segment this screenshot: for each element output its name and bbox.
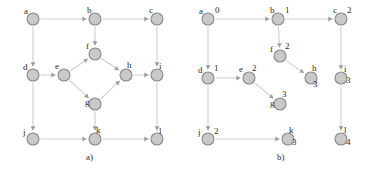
arrowhead-j-to-k (275, 137, 279, 142)
node-distance-b: 1 (285, 5, 290, 15)
node-letter-e: e (239, 64, 243, 74)
node-f[interactable]: f (86, 41, 101, 60)
node-letter-e: e (55, 61, 59, 71)
node-circle-a[interactable] (202, 13, 214, 25)
node-letter-g: g (85, 97, 90, 107)
node-letter-l: l (344, 125, 347, 135)
node-circle-g[interactable] (89, 98, 101, 110)
node-circle-f[interactable] (89, 48, 101, 60)
arrowhead-d-to-j (206, 126, 211, 130)
node-distance-c: 2 (347, 5, 352, 15)
figure-canvas: abcfdehigjkla)a0b1c2f2d1e2h3i3g3j2k3l4b) (0, 0, 365, 173)
node-g[interactable]: g (85, 97, 101, 110)
node-distance-g: 3 (282, 89, 287, 99)
node-letter-f: f (270, 44, 273, 54)
node-letter-g: g (270, 98, 275, 108)
node-circle-e[interactable] (58, 69, 70, 81)
node-distance-h: 3 (313, 79, 318, 89)
node-circle-f[interactable] (274, 50, 286, 62)
node-letter-j: j (197, 127, 201, 137)
panel-a-edges (31, 17, 160, 142)
node-letter-f: f (86, 41, 89, 51)
node-circle-h[interactable] (120, 69, 132, 81)
arrowhead-a-to-d (206, 65, 211, 69)
panel-a: abcfdehigjkla) (22, 5, 163, 162)
node-letter-k: k (289, 125, 294, 135)
node-letter-h: h (312, 63, 317, 73)
node-circle-a[interactable] (27, 13, 39, 25)
arrowhead-a-to-b (82, 17, 86, 22)
node-letter-a: a (24, 6, 28, 16)
node-letter-c: c (149, 5, 153, 15)
panel-b: a0b1c2f2d1e2h3i3g3j2k3l4b) (197, 5, 352, 162)
arrowhead-f-to-h (299, 69, 304, 73)
node-distance-j: 2 (214, 126, 219, 136)
arrowhead-k-to-l (144, 137, 148, 142)
node-letter-h: h (127, 60, 132, 70)
node-letter-d: d (198, 65, 203, 75)
node-letter-k: k (96, 125, 101, 135)
node-circle-g[interactable] (274, 98, 286, 110)
panel-a-caption: a) (86, 152, 93, 162)
node-b[interactable]: b (87, 5, 101, 25)
node-letter-i: i (159, 61, 162, 71)
arrowhead-h-to-i (144, 73, 148, 78)
node-c[interactable]: c2 (333, 5, 352, 25)
node-letter-a: a (199, 6, 203, 16)
node-circle-j[interactable] (27, 133, 39, 145)
node-j[interactable]: j (22, 127, 39, 145)
node-distance-l: 4 (346, 137, 351, 147)
arrowhead-j-to-k (82, 137, 86, 142)
arrowhead-b-to-f (93, 41, 98, 45)
node-circle-e[interactable] (243, 72, 255, 84)
node-letter-i: i (344, 64, 347, 74)
arrowhead-b-to-c (328, 17, 332, 22)
arrowhead-d-to-e (236, 76, 240, 81)
node-h[interactable]: h3 (305, 63, 318, 89)
graph-diagram-svg: abcfdehigjkla)a0b1c2f2d1e2h3i3g3j2k3l4b) (0, 0, 365, 173)
arrowhead-d-to-e (51, 73, 55, 78)
node-circle-d[interactable] (202, 72, 214, 84)
panel-b-caption: b) (277, 152, 285, 162)
node-distance-d: 1 (214, 63, 219, 73)
arrowhead-c-to-i (339, 65, 344, 69)
node-letter-j: j (22, 127, 26, 137)
node-l[interactable]: l4 (335, 125, 351, 147)
node-distance-e: 2 (252, 63, 257, 73)
node-letter-b: b (270, 5, 275, 15)
node-b[interactable]: b1 (270, 5, 290, 25)
node-distance-f: 2 (285, 41, 290, 51)
node-e[interactable]: e2 (239, 63, 257, 84)
arrowhead-a-to-b (265, 17, 269, 22)
arrowhead-a-to-d (31, 62, 36, 66)
panel-b-nodes: a0b1c2f2d1e2h3i3g3j2k3l4 (197, 5, 352, 147)
node-circle-j[interactable] (202, 133, 214, 145)
node-g[interactable]: g3 (270, 89, 287, 110)
node-a[interactable]: a0 (199, 5, 220, 25)
node-e[interactable]: e (55, 61, 70, 81)
node-c[interactable]: c (149, 5, 163, 25)
node-letter-d: d (23, 62, 28, 72)
node-letter-b: b (87, 5, 92, 15)
node-d[interactable]: d (23, 62, 39, 81)
arrowhead-b-to-c (144, 17, 148, 22)
node-a[interactable]: a (24, 6, 39, 25)
node-k[interactable]: k3 (282, 125, 297, 147)
node-distance-i: 3 (346, 75, 351, 85)
node-h[interactable]: h (120, 60, 132, 81)
node-distance-a: 0 (215, 5, 220, 15)
arrowhead-b-to-f (277, 43, 282, 47)
node-i[interactable]: i3 (335, 64, 351, 85)
panel-b-edges (206, 17, 344, 142)
arrowhead-d-to-j (31, 126, 36, 130)
node-letter-c: c (333, 5, 337, 15)
node-distance-k: 3 (292, 137, 297, 147)
arrowhead-i-to-l (339, 126, 344, 130)
node-circle-d[interactable] (27, 69, 39, 81)
